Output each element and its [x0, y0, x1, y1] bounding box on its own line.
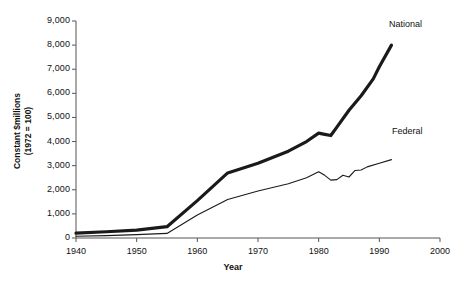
series-label-national: National: [389, 19, 422, 29]
line-chart: 01,0002,0003,0004,0005,0006,0007,0008,00…: [0, 0, 466, 287]
y-axis-tick-label: 6,000: [32, 87, 70, 97]
x-axis-tick-label: 1980: [299, 246, 339, 256]
y-axis-tick-label: 1,000: [32, 208, 70, 218]
y-axis-tick-label: 8,000: [32, 39, 70, 49]
x-axis-tick-label: 1960: [177, 246, 217, 256]
x-axis-tick-label: 1950: [117, 246, 157, 256]
y-axis-tick-label: 3,000: [32, 160, 70, 170]
y-axis-tick-label: 7,000: [32, 63, 70, 73]
series-label-federal: Federal: [392, 126, 423, 136]
y-axis-title: Constant $millions (1972 = 100): [12, 77, 34, 185]
data-series: [76, 45, 391, 236]
y-axis-title-line2: (1972 = 100): [23, 77, 34, 185]
y-axis-title-line1: Constant $millions: [12, 77, 23, 185]
series-line-national: [76, 45, 391, 233]
x-axis-tick-label: 1990: [359, 246, 399, 256]
x-axis-tick-label: 2000: [420, 246, 460, 256]
x-axis-title: Year: [0, 262, 466, 272]
x-axis-tick-label: 1970: [238, 246, 278, 256]
y-axis-tick-label: 4,000: [32, 136, 70, 146]
y-axis-tick-label: 5,000: [32, 111, 70, 121]
y-axis-tick-label: 2,000: [32, 184, 70, 194]
x-axis-tick-label: 1940: [56, 246, 96, 256]
y-axis-tick-label: 0: [32, 232, 70, 242]
y-axis-tick-label: 9,000: [32, 15, 70, 25]
